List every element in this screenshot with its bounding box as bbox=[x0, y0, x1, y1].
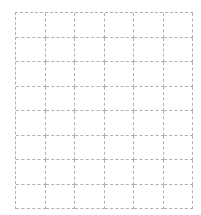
grid-cell bbox=[46, 13, 76, 38]
grid-cell bbox=[134, 111, 164, 136]
grid-cell bbox=[16, 13, 46, 38]
grid-cell bbox=[164, 136, 194, 161]
grid-cell bbox=[105, 111, 135, 136]
grid-cell bbox=[46, 136, 76, 161]
grid-cell bbox=[134, 185, 164, 210]
grid-cell bbox=[75, 13, 105, 38]
grid-cell bbox=[75, 111, 105, 136]
grid-cell bbox=[134, 87, 164, 112]
grid-cell bbox=[75, 62, 105, 87]
grid-cell bbox=[105, 136, 135, 161]
grid-cell bbox=[105, 185, 135, 210]
grid-cell bbox=[105, 62, 135, 87]
grid-cell bbox=[105, 160, 135, 185]
grid-cell bbox=[16, 185, 46, 210]
grid-cell bbox=[46, 111, 76, 136]
grid-cell bbox=[46, 160, 76, 185]
grid-cell bbox=[164, 13, 194, 38]
grid-cell bbox=[75, 38, 105, 63]
dotted-grid bbox=[15, 12, 193, 209]
grid-cell bbox=[75, 185, 105, 210]
grid-cell bbox=[75, 160, 105, 185]
grid-cell bbox=[16, 38, 46, 63]
grid-cell bbox=[46, 185, 76, 210]
grid-cell bbox=[164, 62, 194, 87]
grid-cell bbox=[16, 111, 46, 136]
grid-cell bbox=[164, 38, 194, 63]
grid-cell bbox=[164, 185, 194, 210]
grid-cell bbox=[105, 87, 135, 112]
grid-cell bbox=[105, 38, 135, 63]
grid-cell bbox=[16, 136, 46, 161]
grid-cell bbox=[16, 160, 46, 185]
grid-cell bbox=[134, 62, 164, 87]
grid-cell bbox=[46, 87, 76, 112]
grid-cell bbox=[46, 38, 76, 63]
grid-cell bbox=[75, 87, 105, 112]
grid-cell bbox=[16, 87, 46, 112]
grid-cell bbox=[134, 38, 164, 63]
grid-cell bbox=[134, 13, 164, 38]
grid-cell bbox=[164, 111, 194, 136]
grid-cell bbox=[75, 136, 105, 161]
grid-cell bbox=[105, 13, 135, 38]
grid-cell bbox=[46, 62, 76, 87]
grid-cell bbox=[164, 87, 194, 112]
grid-cell bbox=[16, 62, 46, 87]
grid-cell bbox=[134, 160, 164, 185]
grid-cell bbox=[134, 136, 164, 161]
grid-cell bbox=[164, 160, 194, 185]
